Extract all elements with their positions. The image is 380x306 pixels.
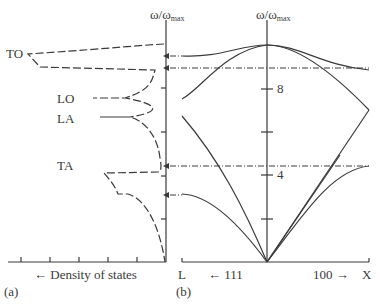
dos-y-ticks [161,88,166,219]
dos-axis-title: ω/ωmax [150,8,185,26]
dispersion-axis-title: ω/ωmax [256,8,291,26]
ta-branch-111 [182,194,267,262]
to-branch [182,45,369,70]
label-TA: TA [57,159,73,173]
la-branch-111 [182,116,267,262]
dos-curve [28,44,165,262]
x-label-L: L [178,268,186,282]
x-label-X: X [362,268,371,282]
panel-a-tag: (a) [4,285,18,299]
panel-b-tag: (b) [176,285,191,299]
direction-100-label: 100 → [313,268,349,282]
phonon-diagram [0,0,380,306]
dos-x-label: ← Density of states [34,268,137,282]
y-tick-label-4: 4 [277,168,284,182]
direction-111-label: ← 111 [208,268,243,282]
label-LO: LO [57,92,74,106]
label-LA: LA [57,112,74,126]
dos-x-ticks [21,257,137,262]
label-TO: TO [6,47,23,61]
y-tick-label-8: 8 [277,82,284,96]
